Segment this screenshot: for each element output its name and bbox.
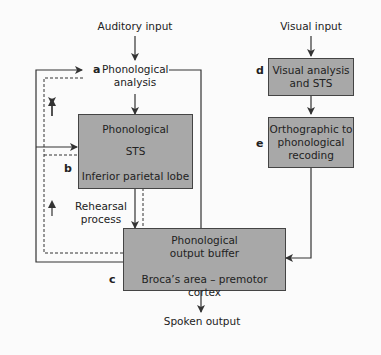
node-d-line1: Visual analysis	[269, 64, 353, 77]
node-b-letter: b	[64, 162, 72, 175]
rehearsal-line2: process	[70, 213, 132, 226]
node-e-letter: e	[256, 137, 263, 150]
node-c-line2: output buffer	[124, 247, 285, 260]
node-e-box: Orthographic to phonological recoding	[268, 117, 354, 168]
node-d-letter: d	[256, 64, 264, 77]
node-e-line1: Orthographic to	[269, 123, 353, 136]
node-c-line3: Broca’s area – premotor cortex	[124, 273, 285, 299]
rehearsal-line1: Rehearsal	[70, 200, 132, 213]
node-e-line3: recoding	[269, 149, 353, 162]
node-c-letter: c	[109, 273, 116, 286]
node-a-letter: a	[93, 63, 100, 76]
node-b-line2: STS	[79, 145, 192, 158]
spoken-output-label: Spoken output	[160, 315, 244, 328]
node-a-line1: Phonological	[102, 63, 168, 76]
auditory-input-label: Auditory input	[95, 20, 175, 33]
node-d-box: Visual analysis and STS	[268, 58, 354, 96]
node-c-line1: Phonological	[124, 234, 285, 247]
node-b-box: Phonological STS Inferior parietal lobe	[78, 114, 193, 189]
node-c-box: Phonological output buffer Broca’s area …	[123, 228, 286, 291]
visual-input-label: Visual input	[275, 20, 347, 33]
node-d-line2: and STS	[269, 77, 353, 90]
node-a-line2: analysis	[102, 76, 168, 89]
node-b-line1: Phonological	[79, 123, 192, 136]
node-e-line2: phonological	[269, 136, 353, 149]
node-b-line3: Inferior parietal lobe	[79, 170, 192, 183]
